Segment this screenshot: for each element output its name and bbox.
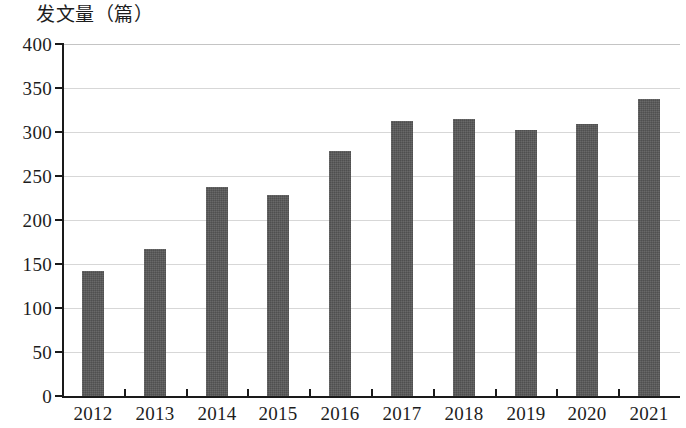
y-axis-tick-label: 0 [0, 387, 52, 406]
x-axis-tick [495, 389, 497, 398]
y-axis-tick-label: 250 [0, 167, 52, 186]
x-axis-tick-label: 2017 [371, 402, 433, 426]
x-axis-tick [618, 389, 620, 398]
chart-title: 发文量（篇） [36, 2, 153, 28]
bar [329, 151, 351, 396]
gridline [62, 88, 680, 89]
x-axis-tick-label: 2018 [433, 402, 495, 426]
bar [453, 119, 475, 396]
x-axis-tick [433, 389, 435, 398]
x-axis-tick-label: 2016 [309, 402, 371, 426]
bar [206, 187, 228, 396]
x-axis-tick [124, 389, 126, 398]
bar [391, 121, 413, 396]
y-axis-line [62, 44, 64, 398]
x-axis-tick-label: 2013 [124, 402, 186, 426]
y-axis-tick-label: 50 [0, 343, 52, 362]
y-axis-tick-label: 150 [0, 255, 52, 274]
x-axis-tick-label: 2021 [618, 402, 680, 426]
y-axis-tick-label: 100 [0, 299, 52, 318]
bar [267, 195, 289, 396]
y-axis-tick-label: 200 [0, 211, 52, 230]
bar [576, 124, 598, 396]
x-axis-tick [556, 389, 558, 398]
bar [144, 249, 166, 396]
y-axis-tick-label: 350 [0, 79, 52, 98]
x-axis-tick [371, 389, 373, 398]
x-axis-tick-label: 2015 [247, 402, 309, 426]
y-axis-tick-label: 400 [0, 35, 52, 54]
gridline [62, 44, 680, 45]
y-axis-tick-label: 300 [0, 123, 52, 142]
x-axis-tick [309, 389, 311, 398]
bar [515, 130, 537, 396]
y-axis-labels: 400350300250200150100500 [0, 0, 52, 428]
bar-chart: 发文量（篇） 400350300250200150100500 20122013… [0, 0, 686, 428]
x-axis-tick-label: 2020 [556, 402, 618, 426]
x-axis-tick [186, 389, 188, 398]
x-axis-tick-label: 2019 [495, 402, 557, 426]
x-axis-tick-label: 2014 [186, 402, 248, 426]
bar [638, 99, 660, 396]
x-axis-tick-label: 2012 [62, 402, 124, 426]
bar [82, 271, 104, 396]
x-axis-tick [247, 389, 249, 398]
